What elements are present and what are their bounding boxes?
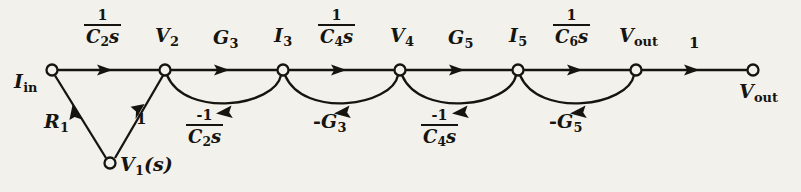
diagonal-arrowheads — [69, 104, 144, 120]
node-Vout-terminal[interactable] — [748, 65, 759, 76]
node-V2[interactable] — [160, 65, 171, 76]
node-label-Iin: Iin — [14, 72, 37, 95]
gain-label-1-over-C4s: 1 C4s — [318, 8, 355, 49]
arc-V4-to-I3 — [285, 75, 398, 103]
gain-label-G3: G3 — [213, 28, 238, 51]
signal-flow-graph-figure: Iin 1 C2s V2 G3 I3 1 C4s V4 G5 I5 — [0, 0, 801, 192]
node-label-Vout-terminal: Vout — [739, 82, 778, 105]
arc-I3-to-V2 — [167, 75, 281, 103]
gain-label-neg1-over-C2s: -1 C2s — [186, 108, 223, 149]
node-label-V2: V2 — [155, 26, 179, 49]
gain-label-R1: R1 — [44, 112, 69, 135]
node-I3[interactable] — [278, 65, 289, 76]
gain-label-neg-G3: -G3 — [313, 112, 346, 135]
node-Iin[interactable] — [47, 65, 58, 76]
gain-label-G5: G5 — [448, 28, 473, 51]
node-label-V1s: V1(s) — [120, 155, 173, 178]
node-label-V4: V4 — [390, 26, 414, 49]
node-label-I5: I5 — [509, 26, 527, 49]
arrowhead-Iin-V1s — [69, 104, 82, 120]
feedback-arcs — [167, 75, 634, 103]
gain-label-neg-G5: -G5 — [549, 112, 582, 135]
gain-label-neg1-over-C4s: -1 C4s — [421, 108, 458, 149]
node-V1s[interactable] — [105, 158, 116, 169]
node-label-I3: I3 — [274, 26, 292, 49]
node-Vout[interactable] — [631, 65, 642, 76]
arc-Vout-to-I5 — [520, 75, 634, 103]
gain-label-1-over-C2s: 1 C2s — [84, 8, 121, 49]
gain-label-1-over-C6s: 1 C6s — [553, 8, 590, 49]
node-I5[interactable] — [513, 65, 524, 76]
arc-I5-to-V4 — [402, 75, 516, 103]
node-V4[interactable] — [395, 65, 406, 76]
gain-label-unity-V2-V1s: 1 — [136, 112, 146, 127]
gain-label-unity-output: 1 — [689, 36, 699, 51]
feedback-arrowheads — [216, 106, 587, 118]
node-label-Vout: Vout — [619, 26, 658, 49]
